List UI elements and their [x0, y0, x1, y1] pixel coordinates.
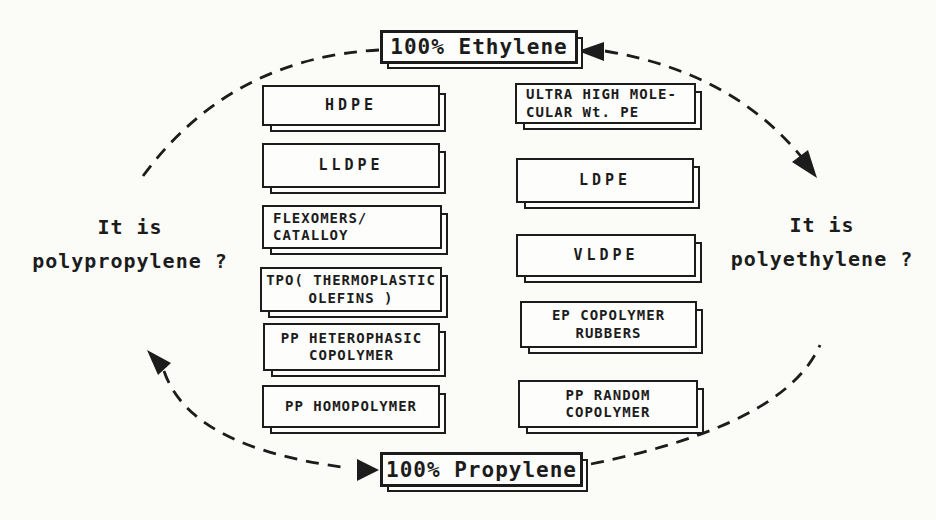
polymer-box-pp-heterophasic-copolymer: PP HETEROPHASIC COPOLYMER — [263, 323, 440, 371]
polymer-box-pp-homopolymer: PP HOMOPOLYMER — [262, 385, 440, 428]
polymer-box-label: TPO( THERMOPLASTIC OLEFINS ) — [266, 272, 436, 307]
question-line-2: polypropylene ? — [22, 244, 238, 278]
polymer-box-label: EP COPOLYMER RUBBERS — [552, 307, 665, 342]
question-line-1: It is — [722, 208, 922, 242]
polymer-box-label: PP HETEROPHASIC COPOLYMER — [281, 330, 422, 365]
polymer-box-label: PP RANDOM COPOLYMER — [566, 387, 651, 422]
polymer-box-label: FLEXOMERS/ CATALLOY — [264, 210, 367, 245]
polymer-box-ep-copolymer-rubbers: EP COPOLYMER RUBBERS — [520, 301, 697, 348]
polymer-box-label: PP HOMOPOLYMER — [285, 398, 417, 416]
polymer-box-label: ULTRA HIGH MOLE- CULAR Wt. PE — [517, 86, 677, 121]
polymer-box-label: LLDPE — [318, 156, 383, 175]
polymer-box-pp-random-copolymer: PP RANDOM COPOLYMER — [518, 380, 698, 428]
polymer-box-label: LDPE — [579, 171, 631, 190]
polymer-box-lldpe: LLDPE — [262, 143, 440, 188]
polymer-cycle-diagram: 100% Ethylene 100% Propylene HDPE LLDPE … — [0, 0, 936, 520]
node-100-propylene: 100% Propylene — [380, 452, 583, 487]
node-100-ethylene-label: 100% Ethylene — [390, 35, 567, 59]
arrowhead-up-left-icon — [147, 350, 171, 375]
question-polypropylene: It is polypropylene ? — [22, 210, 238, 278]
polymer-box-hdpe: HDPE — [262, 85, 440, 126]
arrowhead-down-right-icon — [792, 150, 817, 178]
node-100-ethylene: 100% Ethylene — [380, 30, 578, 64]
polymer-box-label: HDPE — [325, 96, 377, 115]
question-line-1: It is — [22, 210, 238, 244]
polymer-box-ldpe: LDPE — [516, 158, 694, 203]
polymer-box-uhmw-pe: ULTRA HIGH MOLE- CULAR Wt. PE — [515, 83, 696, 124]
polymer-box-vldpe: VLDPE — [516, 234, 696, 277]
node-100-propylene-label: 100% Propylene — [386, 458, 577, 482]
polymer-box-flexomers-catalloy: FLEXOMERS/ CATALLOY — [262, 205, 442, 249]
question-polyethylene: It is polyethylene ? — [722, 208, 922, 276]
question-line-2: polyethylene ? — [722, 242, 922, 276]
polymer-box-tpo: TPO( THERMOPLASTIC OLEFINS ) — [260, 267, 442, 312]
arrowhead-into-ethylene-icon — [578, 42, 604, 61]
polymer-box-label: VLDPE — [573, 246, 638, 265]
arrowhead-into-propylene-icon — [357, 459, 379, 481]
